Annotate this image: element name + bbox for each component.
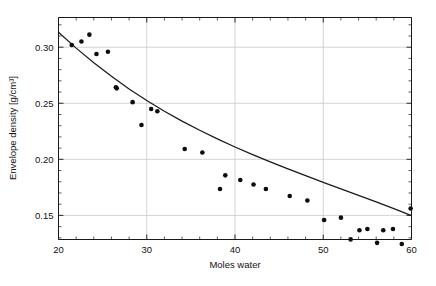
x-tick-label: 40 (230, 244, 241, 255)
data-point (348, 237, 353, 242)
x-tick-label: 50 (318, 244, 329, 255)
data-point (200, 150, 205, 155)
data-point (130, 100, 135, 105)
x-tick-label: 30 (141, 244, 152, 255)
data-point (87, 32, 92, 37)
y-tick-label: 0.20 (35, 154, 54, 165)
scatter-plot-svg: 20304050600.150.200.250.30 Moles water E… (0, 0, 436, 286)
data-point (69, 43, 74, 48)
data-point (381, 228, 386, 233)
data-point (339, 215, 344, 220)
data-point (322, 218, 327, 223)
x-tick-label: 60 (406, 244, 417, 255)
y-tick-label: 0.25 (35, 98, 54, 109)
data-point (218, 187, 223, 192)
chart-figure: 20304050600.150.200.250.30 Moles water E… (0, 0, 436, 286)
data-point (94, 52, 99, 57)
x-tick-label: 20 (53, 244, 64, 255)
data-point (251, 182, 256, 187)
data-point (149, 107, 154, 112)
y-tick-label: 0.30 (35, 42, 54, 53)
data-point (375, 241, 380, 246)
y-axis-title: Envelope density [g/cm³] (7, 76, 18, 180)
data-point (223, 173, 228, 178)
data-point (287, 194, 292, 199)
y-tick-label: 0.15 (35, 210, 54, 221)
data-point (114, 86, 119, 91)
x-axis-title: Moles water (209, 259, 260, 270)
data-point (238, 178, 243, 183)
data-point (408, 206, 413, 211)
data-point (264, 187, 269, 192)
figure-background (0, 0, 436, 286)
data-point (305, 198, 310, 203)
data-point (399, 242, 404, 247)
data-point (79, 39, 84, 44)
data-point (139, 123, 144, 128)
data-point (357, 228, 362, 233)
data-point (391, 227, 396, 232)
data-point (182, 147, 187, 152)
data-point (106, 50, 111, 55)
data-point (365, 227, 370, 232)
data-point (155, 109, 160, 114)
